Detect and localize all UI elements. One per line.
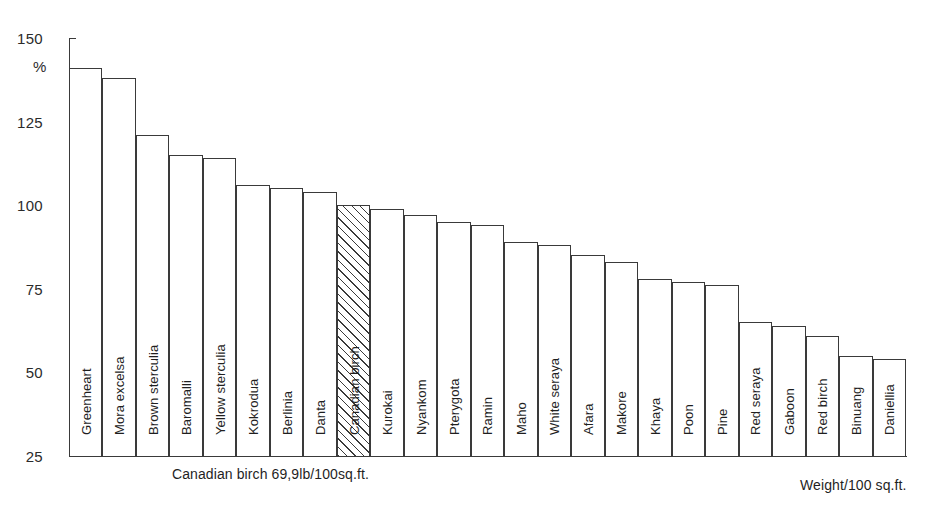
bar: Berlinia bbox=[270, 188, 303, 457]
bar: Ramin bbox=[471, 225, 504, 457]
bar: Kokrodua bbox=[236, 185, 269, 457]
bar-label: Greenheart bbox=[78, 368, 93, 435]
bar: Pine bbox=[705, 285, 738, 457]
bar-label: Red birch bbox=[815, 378, 830, 435]
bar: Kurokai bbox=[370, 209, 403, 457]
bar: Gaboon bbox=[772, 326, 805, 457]
y-axis-tick-label: 100 bbox=[3, 197, 43, 214]
bar-label: Danta bbox=[313, 400, 328, 435]
bar-label: Baromalli bbox=[179, 380, 194, 435]
bar: Yellow sterculia bbox=[203, 158, 236, 457]
bar-label: Poon bbox=[681, 404, 696, 435]
y-axis-tick-label: 125 bbox=[3, 113, 43, 130]
bar: Mora excelsa bbox=[102, 78, 135, 457]
bar: Danta bbox=[303, 192, 336, 457]
bar: Brown sterculia bbox=[136, 135, 169, 457]
bar-label: Nyankom bbox=[413, 379, 428, 435]
bar: Red seraya bbox=[739, 322, 772, 457]
bar: Pterygota bbox=[437, 222, 470, 457]
bar: White seraya bbox=[538, 245, 571, 457]
bar: Daniellia bbox=[873, 359, 906, 457]
bar-label: Ramin bbox=[480, 397, 495, 435]
y-axis-tick-label: 25 bbox=[3, 448, 43, 465]
x-axis-units-label: Weight/100 sq.ft. bbox=[800, 477, 907, 493]
bar: Maho bbox=[504, 242, 537, 457]
bar-label: Gaboon bbox=[781, 388, 796, 435]
bar: Khaya bbox=[638, 279, 671, 457]
y-axis-tick-label: 75 bbox=[3, 280, 43, 297]
bar-label: Binuang bbox=[848, 387, 863, 435]
bar-label: Red seraya bbox=[748, 368, 763, 435]
y-axis-tick-label: 150 bbox=[3, 30, 43, 47]
reference-note: Canadian birch 69,9lb/100sq.ft. bbox=[172, 466, 369, 482]
bar: Makore bbox=[605, 262, 638, 457]
bar-label: Daniellia bbox=[882, 384, 897, 435]
bar-label: Afara bbox=[580, 403, 595, 435]
bar-highlighted: Canadian birch bbox=[337, 205, 370, 457]
bar: Afara bbox=[571, 255, 604, 457]
bar-label: Berlinia bbox=[279, 391, 294, 435]
bar-chart: % 255075100125150 GreenheartMora excelsa… bbox=[0, 0, 938, 511]
bar-label: White seraya bbox=[547, 358, 562, 435]
bar: Nyankom bbox=[404, 215, 437, 457]
bar: Poon bbox=[672, 282, 705, 457]
bar-label: Yellow sterculia bbox=[212, 344, 227, 435]
bar-label: Khaya bbox=[647, 398, 662, 435]
bar-label: Brown sterculia bbox=[145, 345, 160, 435]
bar: Binuang bbox=[839, 356, 872, 457]
bar-label: Mora excelsa bbox=[112, 356, 127, 435]
bar-label: Canadian birch bbox=[346, 346, 361, 435]
bar: Red birch bbox=[806, 336, 839, 457]
bar-label: Kurokai bbox=[380, 390, 395, 435]
bar-label: Pterygota bbox=[447, 378, 462, 435]
y-axis-tick-label: 50 bbox=[3, 364, 43, 381]
bar-label: Makore bbox=[614, 391, 629, 435]
bar: Baromalli bbox=[169, 155, 202, 457]
y-axis-unit-label: % bbox=[33, 58, 47, 75]
bar-label: Pine bbox=[714, 409, 729, 435]
y-axis-tick-mark bbox=[69, 38, 76, 39]
bar-label: Kokrodua bbox=[246, 379, 261, 435]
bar: Greenheart bbox=[69, 68, 102, 457]
bar-label: Maho bbox=[513, 402, 528, 435]
